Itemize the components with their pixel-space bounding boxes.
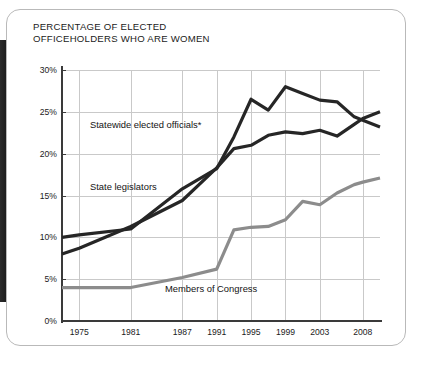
y-axis-tick-label: 0% [45, 316, 57, 326]
x-axis-tick-label: 1999 [276, 327, 295, 337]
series-label-statewide: Statewide elected officials* [90, 119, 201, 130]
x-axis-tick-label: 2003 [310, 327, 329, 337]
x-axis-tick-label: 1981 [121, 327, 140, 337]
y-axis-tick-label: 10% [40, 232, 57, 242]
x-axis-tick-label: 1975 [70, 327, 89, 337]
y-axis-tick-label: 5% [45, 274, 57, 284]
x-axis-tick-label: 1987 [173, 327, 192, 337]
y-axis-tick-label: 30% [40, 65, 57, 75]
y-axis-tick-label: 25% [40, 107, 57, 117]
y-axis-tick-label: 15% [40, 191, 57, 201]
plot-area: 0%5%10%15%20%25%30% 19751981198719911995… [62, 70, 380, 321]
y-axis-tick [62, 321, 66, 322]
x-axis-tick-label: 1995 [242, 327, 261, 337]
x-axis-tick-label: 1991 [207, 327, 226, 337]
series-label-members-of-congress: Members of Congress [165, 283, 257, 294]
x-axis-tick-label: 2008 [353, 327, 372, 337]
chart-title: PERCENTAGE OF ELECTED OFFICEHOLDERS WHO … [33, 21, 333, 46]
series-label-state-legislators: State legislators [90, 181, 157, 192]
y-axis-tick-label: 20% [40, 149, 57, 159]
